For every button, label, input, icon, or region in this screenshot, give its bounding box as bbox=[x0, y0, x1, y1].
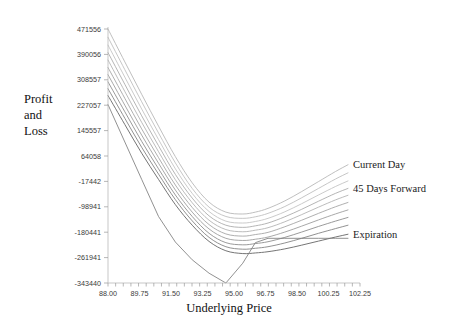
y-tick-label: 64058 bbox=[81, 152, 101, 161]
y-tick-label: 145557 bbox=[77, 126, 101, 135]
y-tick-label: -343440 bbox=[75, 279, 101, 288]
legend-group: Current Day45 Days ForwardExpiration bbox=[353, 159, 427, 239]
y-axis-title-line-1: Profit bbox=[24, 92, 53, 106]
y-axis-title: Profit and Loss bbox=[24, 92, 53, 138]
y-axis-title-line-2: and bbox=[24, 108, 43, 122]
y-tick-label: -98941 bbox=[79, 202, 101, 211]
x-tick-label: 96.75 bbox=[257, 289, 275, 298]
y-tick-label: 390056 bbox=[77, 50, 101, 59]
x-tick-label: 98.50 bbox=[288, 289, 306, 298]
legend-label-45-days-forward: 45 Days Forward bbox=[353, 183, 427, 194]
x-tick-label: 95.00 bbox=[225, 289, 243, 298]
x-axis-tick-labels: 88.0089.7591.5093.2595.0096.7598.50100.2… bbox=[99, 289, 371, 298]
curves-group bbox=[108, 29, 348, 283]
curve-day-3 bbox=[108, 45, 348, 223]
axes-group bbox=[104, 27, 360, 287]
y-tick-label: -180441 bbox=[75, 228, 101, 237]
y-tick-label: 471556 bbox=[77, 25, 101, 34]
y-tick-label: -261941 bbox=[75, 253, 101, 262]
x-tick-label: 102.25 bbox=[349, 289, 371, 298]
y-tick-label: 227057 bbox=[77, 101, 101, 110]
x-tick-label: 100.25 bbox=[318, 289, 340, 298]
curve-45-days-forward bbox=[108, 53, 348, 228]
legend-label-expiration: Expiration bbox=[353, 229, 398, 240]
y-axis-title-line-3: Loss bbox=[24, 124, 48, 138]
y-tick-label: -17442 bbox=[79, 177, 101, 186]
curve-expiration-payoff bbox=[108, 105, 348, 283]
legend-label-current-day: Current Day bbox=[353, 159, 406, 170]
x-tick-label: 89.75 bbox=[131, 289, 149, 298]
x-tick-label: 93.25 bbox=[194, 289, 212, 298]
x-tick-label: 91.50 bbox=[162, 289, 180, 298]
chart-canvas: 88.0089.7591.5093.2595.0096.7598.50100.2… bbox=[0, 0, 459, 324]
profit-loss-chart: 88.0089.7591.5093.2595.0096.7598.50100.2… bbox=[0, 0, 459, 324]
y-axis-tick-labels: 47155639005630855722705714555764058-1744… bbox=[75, 25, 101, 288]
x-axis-title: Underlying Price bbox=[186, 301, 272, 315]
x-tick-label: 88.00 bbox=[99, 289, 117, 298]
curve-day-2 bbox=[108, 37, 348, 218]
y-tick-label: 308557 bbox=[77, 75, 101, 84]
curve-current-day bbox=[108, 29, 348, 214]
